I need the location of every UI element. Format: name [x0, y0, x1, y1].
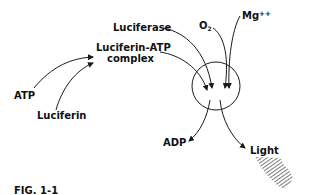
arrow-atp-to-complex [34, 57, 93, 88]
label-complex-line1: Luciferin-ATP [96, 42, 171, 53]
label-adp: ADP [163, 137, 186, 148]
arrow-complex-to-reaction [160, 52, 207, 90]
label-luciferin: Luciferin [37, 110, 86, 121]
arrow-reaction-to-adp [189, 100, 210, 141]
label-oxygen: O2 [199, 20, 212, 32]
light-emission-icon [255, 157, 293, 189]
label-complex-line2: complex [107, 53, 155, 64]
arrow-luciferase-to-reaction [163, 28, 212, 88]
diagram-svg: Luciferase O2 Mg++ Luciferin-ATP complex… [0, 0, 309, 195]
arrow-o2-to-reaction [213, 28, 227, 88]
reaction-circle [192, 62, 240, 110]
arrow-luciferin-to-complex [56, 63, 93, 110]
luciferase-reaction-diagram: Luciferase O2 Mg++ Luciferin-ATP complex… [0, 0, 309, 195]
label-atp: ATP [14, 90, 35, 101]
figure-caption: FIG. 1-1 [14, 185, 58, 195]
label-luciferase: Luciferase [113, 22, 172, 33]
arrow-reaction-to-light [220, 100, 245, 148]
label-light: Light [250, 145, 279, 156]
label-magnesium: Mg++ [242, 10, 271, 21]
